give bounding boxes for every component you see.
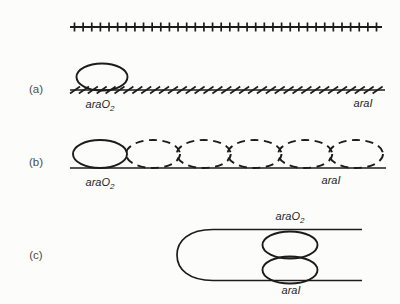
- site-label-arai-a: araI: [354, 97, 373, 109]
- site-label-subscript: 2: [299, 216, 305, 225]
- protein-ellipse-dashed: [329, 140, 383, 168]
- panel-b-dashed-ellipses: [126, 140, 383, 168]
- site-label-subscript: 2: [109, 182, 115, 191]
- site-label-arao2-c: araO2: [276, 210, 305, 225]
- protein-ellipse-dashed: [126, 140, 180, 168]
- site-label-base: araO: [86, 98, 111, 110]
- protein-ellipse-solid-a: [77, 64, 128, 91]
- panel-a: (a) araO2 araI: [29, 64, 385, 114]
- site-label-base: araO: [86, 176, 111, 188]
- protein-ellipse-top-c: [263, 232, 318, 259]
- protein-ellipse-bottom-c: [263, 257, 318, 284]
- figure: (a) araO2 araI (b) araO2 araI (c) araO2 …: [0, 0, 400, 304]
- site-label-subscript: 2: [109, 104, 115, 113]
- protein-ellipse-dashed: [228, 140, 282, 168]
- site-label-base: araO: [276, 210, 301, 222]
- site-label-arao2-b: araO2: [86, 176, 115, 191]
- site-label-arai-c: araI: [282, 284, 301, 296]
- site-label-arai-b: araI: [322, 174, 341, 186]
- panel-c-label: (c): [29, 249, 43, 261]
- protein-ellipse-solid-b: [73, 140, 127, 168]
- panel-a-label: (a): [29, 83, 43, 95]
- protein-ellipse-dashed: [278, 140, 332, 168]
- panel-b-label: (b): [29, 156, 43, 168]
- panel-c: (c) araO2 araI: [29, 210, 362, 296]
- top-track: [70, 23, 382, 32]
- dna-looping-diagram: (a) araO2 araI (b) araO2 araI (c) araO2 …: [0, 0, 400, 304]
- site-label-arao2-a: araO2: [86, 98, 115, 113]
- panel-b: (b) araO2 araI: [29, 140, 386, 191]
- protein-ellipse-dashed: [177, 140, 231, 168]
